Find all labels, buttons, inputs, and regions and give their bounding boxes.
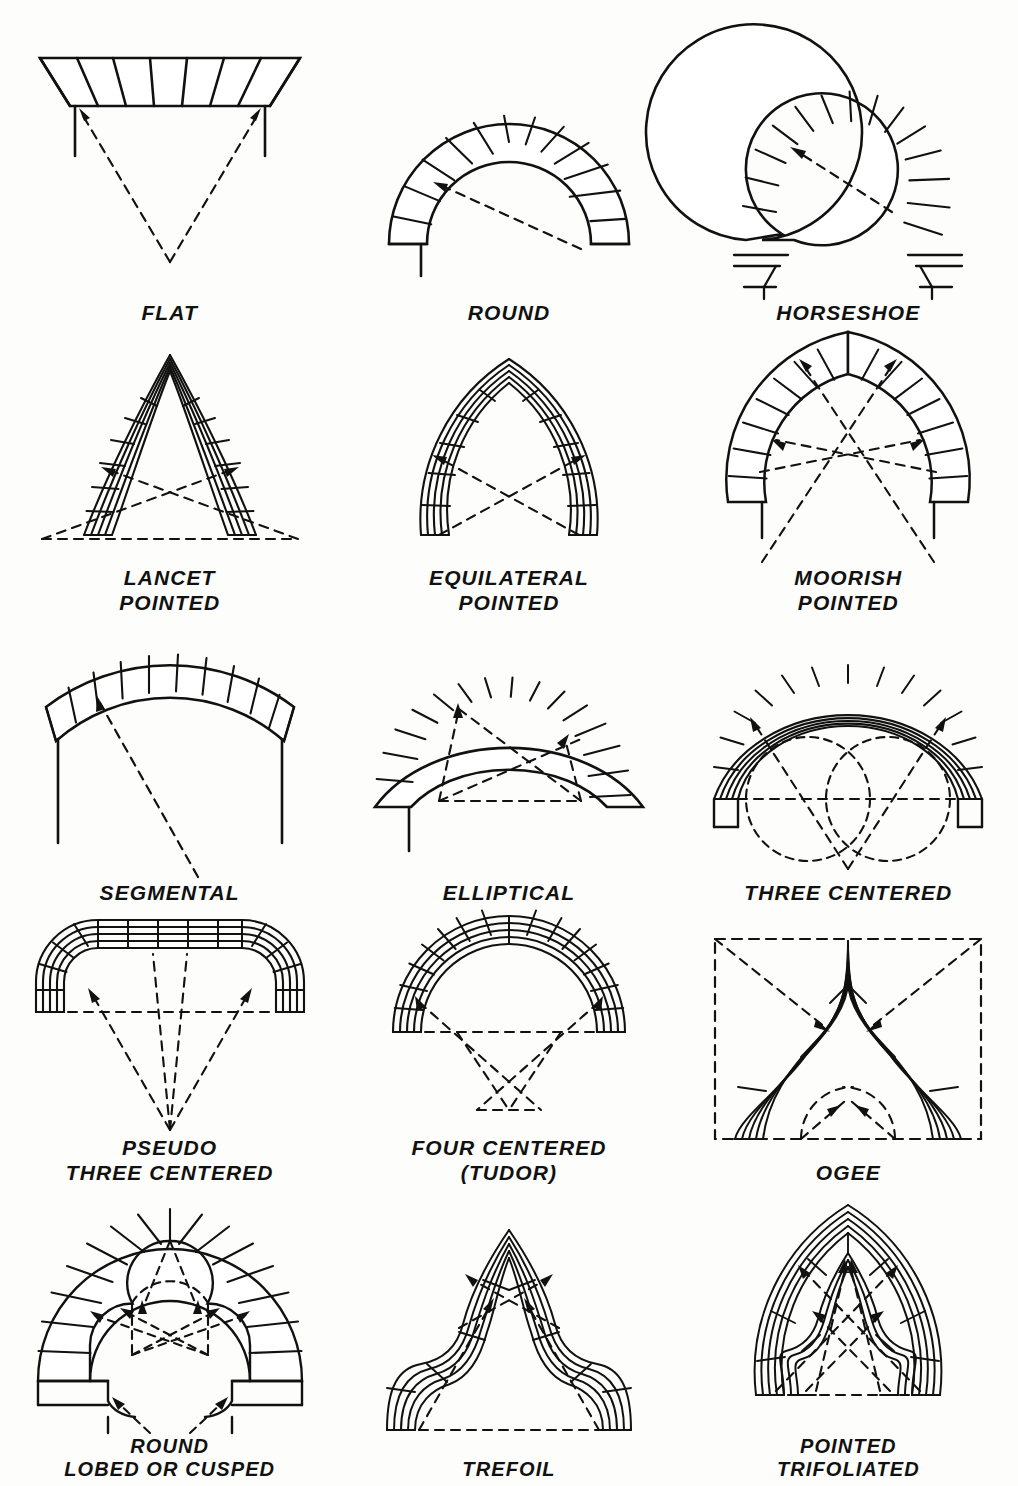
figure-round: ROUND: [339, 0, 678, 330]
pseudo-arch-center-lines: [92, 954, 248, 1130]
figure-four-centered: FOUR CENTERED (TUDOR): [339, 910, 678, 1190]
figure-equilateral-pointed: EQUILATERAL POINTED: [339, 330, 678, 620]
round-arch-drawing: [339, 0, 678, 299]
figure-elliptical: ELLIPTICAL: [339, 620, 678, 910]
elliptical-arch-arrowheads: [453, 703, 569, 749]
four-centered-arch-center-lines: [419, 1002, 599, 1110]
lancet-arch-moulding-bands: [84, 355, 256, 535]
figure-label: PSEUDO THREE CENTERED: [66, 1134, 274, 1186]
horseshoe-arch-imposts: [734, 255, 962, 299]
equilateral-arch-center-lines: [437, 457, 581, 535]
moorish-arch-voussoirs: [727, 332, 970, 502]
three-centered-arch-joints: [714, 665, 982, 799]
figure-segmental: SEGMENTAL: [0, 620, 339, 910]
figure-label: LANCET POINTED: [119, 564, 220, 616]
round-lobed-cusped-arch-drawing: [0, 1190, 339, 1433]
pseudo-three-centered-arch-drawing: [0, 910, 339, 1134]
figure-three-centered: THREE CENTERED: [679, 620, 1018, 910]
four-centered-arch-joints: [393, 911, 625, 1033]
pseudo-arch-rings: [36, 920, 304, 1012]
figure-lancet-pointed: LANCET POINTED: [0, 330, 339, 620]
lancet-arch-center-lines: [42, 469, 298, 539]
figure-label: POINTED TRIFOLIATED: [777, 1433, 920, 1482]
segmental-arch-voussoirs: [46, 655, 294, 742]
trefoil-arch-drawing: [339, 1190, 678, 1456]
elliptical-arch-drawing: [339, 620, 678, 879]
figure-label: FOUR CENTERED (TUDOR): [411, 1134, 606, 1186]
arch-figure-grid: FLAT: [0, 0, 1018, 1486]
horseshoe-arch-voussoirs: [646, 25, 950, 246]
flat-arch-drawing: [0, 0, 339, 299]
figure-label: THREE CENTERED: [744, 879, 952, 906]
flat-arch-voussoirs: [40, 58, 300, 106]
round-arch-center-line: [438, 184, 581, 249]
diagram-sheet: FLAT: [0, 0, 1018, 1486]
four-centered-arch-arrowheads: [415, 996, 603, 1011]
segmental-arch-center-line: [100, 703, 198, 877]
equilateral-arch-moulding-bands: [420, 359, 597, 535]
flat-arch-arrowheads: [79, 108, 261, 121]
trefoil-arch-mouldings: [387, 1230, 631, 1430]
round-arch-imposts: [389, 244, 629, 276]
figure-label: HORSESHOE: [776, 299, 920, 326]
three-centered-arch-imposts: [714, 799, 982, 827]
three-centered-arch-drawing: [679, 620, 1018, 879]
figure-label: OGEE: [816, 1159, 881, 1186]
lobed-arch-haunch-profile: [38, 1381, 302, 1433]
pointed-trifoliated-arch-drawing: [679, 1190, 1018, 1433]
segmental-arch-drawing: [0, 620, 339, 879]
figure-flat: FLAT: [0, 0, 339, 330]
figure-horseshoe: HORSESHOE: [679, 0, 1018, 330]
figure-label: ELLIPTICAL: [443, 879, 575, 906]
figure-moorish-pointed: MOORISH POINTED: [679, 330, 1018, 620]
four-centered-arch-drawing: [339, 910, 678, 1134]
flat-arch-center-lines: [82, 114, 258, 262]
moorish-arch-piers: [762, 502, 934, 538]
trefoil-arch-joints: [387, 1280, 631, 1430]
trefoil-arch-arrowheads: [465, 1274, 553, 1313]
figure-ogee: OGEE: [679, 910, 1018, 1190]
lancet-pointed-arch-drawing: [0, 330, 339, 564]
trifoliated-arch-inner-foils: [780, 1253, 916, 1395]
figure-label: FLAT: [141, 299, 198, 326]
figure-label: TREFOIL: [462, 1456, 555, 1482]
round-arch-voussoirs: [389, 116, 629, 244]
horseshoe-arch-arrowhead: [790, 147, 806, 159]
figure-pseudo-three-centered: PSEUDO THREE CENTERED: [0, 910, 339, 1190]
figure-label: ROUND LOBED OR CUSPED: [64, 1433, 275, 1482]
ogee-arch-mouldings: [735, 941, 961, 1139]
elliptical-arch-voussoirs: [375, 678, 643, 807]
figure-round-lobed-cusped: ROUND LOBED OR CUSPED: [0, 1190, 339, 1486]
pseudo-arch-arrowheads: [88, 988, 252, 1003]
equilateral-pointed-arch-drawing: [339, 330, 678, 564]
horseshoe-arch-drawing: [679, 0, 1018, 299]
ogee-arch-drawing: [679, 910, 1018, 1159]
figure-label: MOORISH POINTED: [794, 564, 902, 616]
figure-pointed-trifoliated: POINTED TRIFOLIATED: [679, 1190, 1018, 1486]
figure-label: EQUILATERAL POINTED: [429, 564, 589, 616]
figure-label: SEGMENTAL: [100, 879, 240, 906]
figure-label: ROUND: [468, 299, 551, 326]
figure-trefoil: TREFOIL: [339, 1190, 678, 1486]
moorish-pointed-arch-drawing: [679, 330, 1018, 564]
lobed-arch-outer-band: [38, 1209, 302, 1381]
